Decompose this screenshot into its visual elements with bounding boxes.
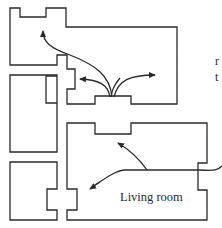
arrow-to-top-room-upper-left xyxy=(43,31,112,97)
living-room-outline xyxy=(67,123,207,220)
arrow-to-living-room-lower-left xyxy=(90,182,100,189)
arrow-to-top-room-left xyxy=(80,79,110,97)
floor-plan-diagram xyxy=(0,0,222,228)
left-upper-room-outline xyxy=(10,75,57,152)
cropped-edge-text-line-1: r xyxy=(215,54,219,69)
entry-line-living-room xyxy=(92,166,222,187)
living-room-label: Living room xyxy=(120,190,183,205)
cropped-edge-text-line-2: t xyxy=(215,70,218,85)
hall-notch-upper xyxy=(46,76,57,103)
left-lower-room-outline xyxy=(10,162,57,220)
top-room-outline xyxy=(10,8,177,104)
arrow-to-living-room-upper xyxy=(118,143,147,170)
